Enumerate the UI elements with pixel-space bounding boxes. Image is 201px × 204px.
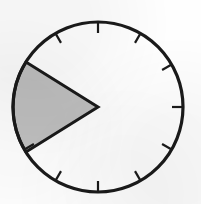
clock-diagram xyxy=(0,0,201,204)
figure-canvas xyxy=(0,0,201,204)
